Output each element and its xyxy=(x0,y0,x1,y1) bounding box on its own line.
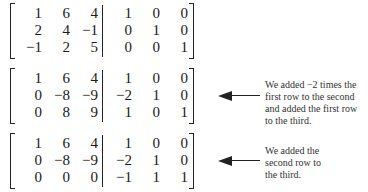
matrix-entry: 0 xyxy=(16,87,42,104)
matrix-entry: 0 xyxy=(72,169,98,186)
matrix-row: 0 −8 −9 −2 1 0 xyxy=(10,87,194,104)
augmented-matrix-3: 1 6 4 1 0 0 0 −8 −9 −2 1 0 0 0 0 −1 1 1 xyxy=(10,133,194,189)
matrix-entry: 1 xyxy=(16,5,42,22)
matrix-entry: −1 xyxy=(16,39,42,56)
row-operation-note: We added the second row to the third. xyxy=(265,145,335,181)
matrix-entry: 0 xyxy=(162,22,188,39)
matrix-entry: 0 xyxy=(16,169,42,186)
matrix-entry: 0 xyxy=(162,5,188,22)
matrix-entry: 0 xyxy=(134,104,160,121)
matrix-entry: 0 xyxy=(162,135,188,152)
matrix-entry: 4 xyxy=(44,22,70,39)
matrix-entry: 0 xyxy=(106,22,132,39)
matrix-entry: 8 xyxy=(44,104,70,121)
matrix-entry: −1 xyxy=(106,169,132,186)
matrix-entry: 1 xyxy=(16,135,42,152)
matrix-entry: 1 xyxy=(106,135,132,152)
matrix-entry: 6 xyxy=(44,70,70,87)
matrix-entry: −9 xyxy=(72,152,98,169)
left-arrow-icon xyxy=(218,156,260,166)
matrix-row: −1 2 5 0 0 1 xyxy=(10,39,194,56)
matrix-entry: 4 xyxy=(72,70,98,87)
matrix-entry: 1 xyxy=(162,39,188,56)
matrix-entry: 1 xyxy=(134,169,160,186)
matrix-entry: 1 xyxy=(16,70,42,87)
matrix-entry: −2 xyxy=(106,152,132,169)
matrix-row: 1 6 4 1 0 0 xyxy=(10,5,194,22)
matrix-entry: 1 xyxy=(106,104,132,121)
matrix-entry: 0 xyxy=(44,169,70,186)
matrix-entry: 0 xyxy=(134,135,160,152)
matrix-entry: 1 xyxy=(106,5,132,22)
matrix-entry: 1 xyxy=(106,70,132,87)
matrix-entry: −8 xyxy=(44,87,70,104)
matrix-entry: 0 xyxy=(106,39,132,56)
matrix-row: 1 6 4 1 0 0 xyxy=(10,70,194,87)
matrix-entry: 0 xyxy=(162,152,188,169)
matrix-entry: 0 xyxy=(134,39,160,56)
matrix-entry: −9 xyxy=(72,87,98,104)
matrix-entry: −2 xyxy=(106,87,132,104)
matrix-entry: 6 xyxy=(44,5,70,22)
matrix-row: 0 0 0 −1 1 1 xyxy=(10,169,194,186)
matrix-entry: 1 xyxy=(162,104,188,121)
augmented-matrix-2: 1 6 4 1 0 0 0 −8 −9 −2 1 0 0 8 9 1 0 1 xyxy=(10,68,194,124)
matrix-row: 0 8 9 1 0 1 xyxy=(10,104,194,121)
matrix-entry: −8 xyxy=(44,152,70,169)
matrix-entry: −1 xyxy=(72,22,98,39)
matrix-entry: 6 xyxy=(44,135,70,152)
matrix-entry: 0 xyxy=(134,70,160,87)
matrix-row: 2 4 −1 0 1 0 xyxy=(10,22,194,39)
matrix-entry: 2 xyxy=(16,22,42,39)
matrix-entry: 1 xyxy=(134,87,160,104)
matrix-row: 0 −8 −9 −2 1 0 xyxy=(10,152,194,169)
matrix-entry: 1 xyxy=(134,22,160,39)
matrix-entry: 0 xyxy=(162,87,188,104)
matrix-entry: 1 xyxy=(134,152,160,169)
matrix-entry: 5 xyxy=(72,39,98,56)
matrix-entry: 2 xyxy=(44,39,70,56)
matrix-entry: 4 xyxy=(72,5,98,22)
matrix-entry: 9 xyxy=(72,104,98,121)
row-operation-note: We added −2 times the first row to the s… xyxy=(265,79,365,127)
matrix-entry: 1 xyxy=(162,169,188,186)
left-arrow-icon xyxy=(218,91,260,101)
augmented-matrix-1: 1 6 4 1 0 0 2 4 −1 0 1 0 −1 2 5 0 0 1 xyxy=(10,3,194,59)
matrix-entry: 0 xyxy=(134,5,160,22)
matrix-entry: 4 xyxy=(72,135,98,152)
matrix-row: 1 6 4 1 0 0 xyxy=(10,135,194,152)
matrix-entry: 0 xyxy=(162,70,188,87)
matrix-entry: 0 xyxy=(16,152,42,169)
matrix-entry: 0 xyxy=(16,104,42,121)
